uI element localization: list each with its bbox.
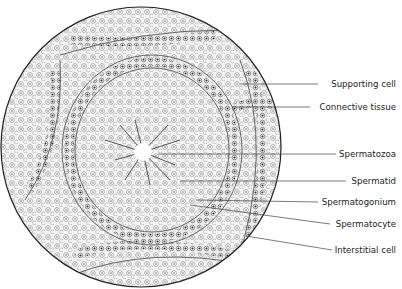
label-spermatocyte: Spermatocyte — [336, 219, 396, 229]
label-spermatogonium: Spermatogonium — [322, 197, 396, 207]
micrograph-circle — [0, 0, 290, 289]
label-spermatid: Spermatid — [352, 176, 396, 186]
label-supporting-cell: Supporting cell — [331, 79, 396, 89]
label-connective-tissue: Connective tissue — [320, 102, 396, 112]
label-spermatozoa: Spermatozoa — [339, 149, 396, 159]
label-interstitial-cell: Interstitial cell — [335, 245, 396, 255]
